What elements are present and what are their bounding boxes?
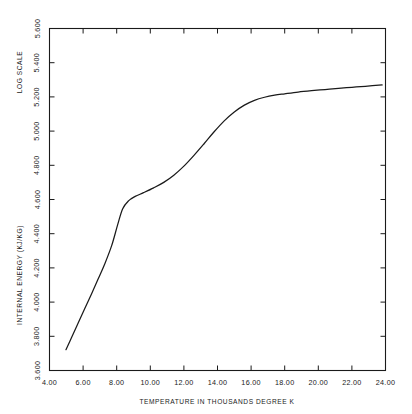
y-tick-label: 4.000	[33, 292, 42, 312]
x-axis-tick-labels: 4.006.008.0010.0012.0014.0016.0018.0020.…	[42, 378, 395, 387]
x-tick-label: 24.00	[376, 378, 396, 387]
x-tick-label: 8.00	[109, 378, 124, 387]
internal-energy-vs-temperature-chart: 4.006.008.0010.0012.0014.0016.0018.0020.…	[0, 0, 412, 414]
x-tick-label: 10.00	[141, 378, 161, 387]
plot-frame	[50, 29, 386, 371]
y-tick-label: 3.800	[33, 327, 42, 347]
x-tick-label: 20.00	[309, 378, 329, 387]
y-tick-label: 5.600	[33, 19, 42, 39]
y-tick-label: 4.800	[33, 156, 42, 176]
data-series-line	[66, 85, 382, 350]
x-tick-label: 6.00	[75, 378, 90, 387]
y-axis-title: INTERNAL ENERGY (KJ/KG)	[16, 225, 24, 325]
y-tick-label: 4.200	[33, 258, 42, 278]
x-tick-label: 12.00	[174, 378, 194, 387]
y-tick-label: 4.400	[33, 224, 42, 244]
y-tick-label: 3.600	[33, 361, 42, 381]
x-tick-label: 22.00	[342, 378, 362, 387]
x-axis-ticks	[50, 29, 386, 371]
x-tick-label: 16.00	[241, 378, 261, 387]
y-axis-secondary-title: LOG SCALE	[16, 51, 23, 93]
y-axis-ticks	[50, 29, 386, 371]
y-axis-tick-labels: 3.6003.8004.0004.2004.4004.6004.8005.000…	[33, 19, 42, 381]
y-tick-label: 4.600	[33, 190, 42, 210]
x-tick-label: 14.00	[208, 378, 228, 387]
y-tick-label: 5.400	[33, 53, 42, 72]
x-axis-title: TEMPERATURE IN THOUSANDS DEGREE K	[140, 398, 295, 405]
x-tick-label: 18.00	[275, 378, 295, 387]
x-tick-label: 4.00	[42, 378, 57, 387]
axes-rectangle	[50, 29, 386, 371]
y-tick-label: 5.000	[33, 121, 42, 141]
chart-figure: 4.006.008.0010.0012.0014.0016.0018.0020.…	[0, 0, 412, 414]
y-tick-label: 5.200	[33, 87, 42, 107]
